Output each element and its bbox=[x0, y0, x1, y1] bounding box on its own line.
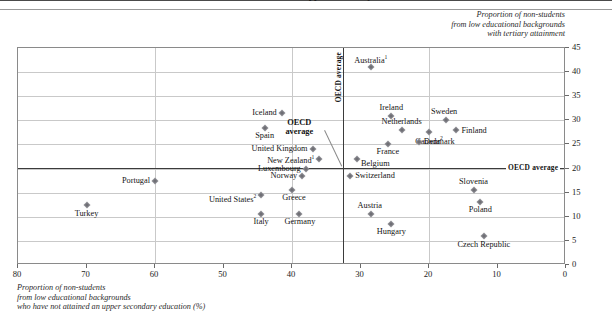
x-axis-tick-label: 30 bbox=[355, 269, 364, 279]
y-axis-tick bbox=[565, 192, 569, 193]
data-point-label: Greece bbox=[282, 194, 306, 203]
y-axis-tick-label: 10 bbox=[572, 211, 581, 221]
data-point-label: Portugal bbox=[122, 176, 150, 185]
data-point-label: Czech Republic bbox=[457, 241, 510, 250]
oecd-average-horizontal-label: OECD average bbox=[506, 162, 560, 171]
data-point-label: United States2 bbox=[209, 192, 256, 204]
y-axis-tick-label: 20 bbox=[572, 163, 581, 173]
oecd-average-leader-line bbox=[324, 130, 342, 166]
data-point-label: Switzerland bbox=[355, 171, 395, 180]
data-point-marker[interactable] bbox=[83, 201, 90, 208]
data-point-label: Denmark bbox=[424, 138, 455, 147]
x-axis-tick-label: 10 bbox=[492, 269, 501, 279]
horizontal-gridline bbox=[18, 72, 564, 73]
y-axis-tick bbox=[565, 143, 569, 144]
data-point-label: France bbox=[377, 148, 400, 157]
y-axis-tick bbox=[565, 71, 569, 72]
x-axis-tick-label: 20 bbox=[424, 269, 433, 279]
data-point-label: Iceland bbox=[252, 109, 276, 118]
y-axis-tick-label: 15 bbox=[572, 187, 581, 197]
data-point-label: Slovenia bbox=[459, 178, 488, 187]
y-axis-caption: Proportion of non-students from low educ… bbox=[451, 10, 565, 39]
data-point-label: Poland bbox=[469, 206, 492, 215]
oecd-average-callout: OECDaverage bbox=[285, 118, 313, 137]
x-axis-tick bbox=[154, 264, 155, 268]
y-axis-caption-line-2: from low educational backgrounds bbox=[451, 20, 565, 30]
x-axis-tick-label: 40 bbox=[287, 269, 296, 279]
data-point-marker[interactable] bbox=[347, 172, 354, 179]
data-point-marker[interactable] bbox=[453, 126, 460, 133]
x-axis-tick-label: 60 bbox=[150, 269, 159, 279]
data-point-label: Spain bbox=[255, 131, 274, 140]
oecd-average-callout-line-1: OECD bbox=[287, 118, 311, 127]
data-point-label: Sweden bbox=[431, 108, 457, 117]
data-point-label: Ireland bbox=[380, 103, 404, 112]
data-point-marker[interactable] bbox=[443, 117, 450, 124]
y-axis-tick bbox=[565, 216, 569, 217]
x-axis-caption: Proportion of non-students from low educ… bbox=[17, 283, 205, 312]
data-point-marker[interactable] bbox=[278, 110, 285, 117]
y-axis-tick bbox=[565, 168, 569, 169]
x-axis-tick-label: 0 bbox=[563, 269, 567, 279]
data-point-label: Australia1 bbox=[354, 53, 387, 65]
x-axis-tick bbox=[497, 264, 498, 268]
y-axis-tick-label: 45 bbox=[572, 42, 581, 52]
oecd-average-callout-line-2: average bbox=[285, 127, 313, 136]
data-point-label: Austria bbox=[358, 202, 382, 211]
oecd-average-vertical-label: OECD average bbox=[334, 52, 343, 102]
x-axis-tick-label: 80 bbox=[13, 269, 22, 279]
x-axis-caption-line-3: who have not attained an upper secondary… bbox=[17, 302, 205, 312]
vertical-gridline bbox=[429, 48, 430, 263]
data-point-marker[interactable] bbox=[480, 233, 487, 240]
y-axis-tick bbox=[565, 47, 569, 48]
y-axis-caption-line-1: Proportion of non-students bbox=[451, 10, 565, 20]
data-point-marker[interactable] bbox=[316, 155, 323, 162]
data-point-marker[interactable] bbox=[398, 126, 405, 133]
scatter-plot-area: OECD averageOECD averageOECDaverageAustr… bbox=[17, 47, 565, 264]
y-axis-tick bbox=[565, 240, 569, 241]
data-point-label: Italy bbox=[254, 218, 269, 227]
x-axis-tick-label: 50 bbox=[218, 269, 227, 279]
horizontal-gridline bbox=[18, 96, 564, 97]
x-axis-tick bbox=[565, 264, 566, 268]
y-axis-tick-label: 35 bbox=[572, 90, 581, 100]
data-point-marker[interactable] bbox=[302, 165, 309, 172]
x-axis-tick bbox=[86, 264, 87, 268]
data-point-label: Finland bbox=[461, 127, 486, 136]
data-point-label: Norway bbox=[271, 171, 298, 180]
x-axis-tick bbox=[17, 264, 18, 268]
y-axis-tick-label: 40 bbox=[572, 66, 581, 76]
x-axis-tick bbox=[291, 264, 292, 268]
y-axis-tick-label: 5 bbox=[572, 235, 576, 245]
data-point-label: Netherlands bbox=[382, 118, 422, 127]
data-point-label: Germany bbox=[284, 218, 315, 227]
y-axis-tick-label: 25 bbox=[572, 138, 581, 148]
y-axis-tick bbox=[565, 119, 569, 120]
x-axis-tick bbox=[428, 264, 429, 268]
y-axis-tick-label: 30 bbox=[572, 114, 581, 124]
data-point-label: Turkey bbox=[75, 209, 99, 218]
vertical-gridline bbox=[155, 48, 156, 263]
y-axis-caption-line-3: with tertiary attainment bbox=[451, 29, 565, 39]
x-axis-tick-label: 70 bbox=[81, 269, 90, 279]
x-axis-tick bbox=[223, 264, 224, 268]
data-point-label: Hungary bbox=[377, 228, 406, 237]
data-point-label: Belgium bbox=[361, 160, 390, 169]
data-point-marker[interactable] bbox=[151, 177, 158, 184]
y-axis-tick-label: 0 bbox=[572, 259, 576, 269]
page-title: who have not attained an upper secondary… bbox=[0, 0, 612, 1]
data-point-marker[interactable] bbox=[354, 155, 361, 162]
x-axis-caption-line-2: from low educational backgrounds bbox=[17, 293, 205, 303]
x-axis-tick bbox=[360, 264, 361, 268]
x-axis-caption-line-1: Proportion of non-students bbox=[17, 283, 205, 293]
y-axis-tick bbox=[565, 95, 569, 96]
oecd-average-vertical-line bbox=[343, 48, 344, 263]
data-point-marker[interactable] bbox=[299, 172, 306, 179]
